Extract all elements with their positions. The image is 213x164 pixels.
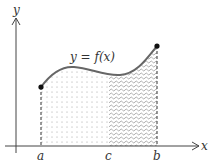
curve-label: y = f(x) [69,50,115,64]
area-under-curve-diagram: y x y = f(x) a c b [0,0,213,164]
label-a: a [37,149,44,163]
point-a-dot [38,84,43,89]
x-axis-label: x [201,139,208,153]
y-axis-label: y [12,3,20,17]
label-b: b [153,149,161,163]
point-b-dot [154,43,159,48]
label-c: c [105,149,112,163]
